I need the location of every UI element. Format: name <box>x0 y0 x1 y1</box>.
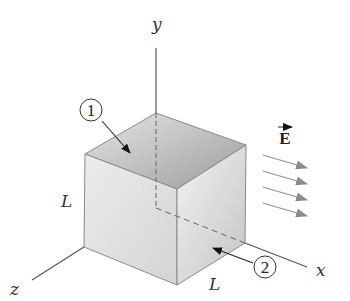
cube-electric-field-diagram: y x z L L 1 2 E <box>0 0 350 301</box>
field-arrow <box>263 203 307 216</box>
electric-field-label: E <box>279 129 290 148</box>
y-axis-label: y <box>151 14 162 34</box>
electric-field-arrows <box>263 155 307 216</box>
side-length-label-bottom: L <box>208 274 220 294</box>
face-2-marker-label: 2 <box>261 258 270 277</box>
x-axis-label: x <box>316 260 326 280</box>
side-length-label-left: L <box>60 191 72 211</box>
field-arrow <box>263 155 307 168</box>
z-axis-label: z <box>9 279 20 299</box>
field-arrow <box>263 171 307 184</box>
z-axis <box>32 247 84 280</box>
field-arrow <box>263 187 307 200</box>
face-1-marker-label: 1 <box>87 101 96 120</box>
